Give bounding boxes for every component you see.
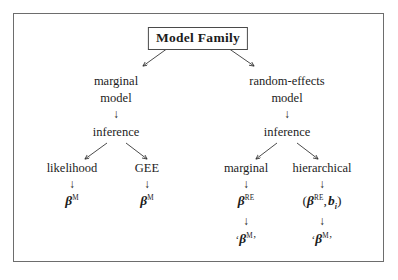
arrow-down-random-effects-to-inference: ↓ (284, 108, 290, 121)
arrow-down-beta-re-to-quoted-beta-m: ↓ (243, 215, 249, 228)
node-marginal-model-line2: model (94, 90, 138, 107)
beta-symbol: β (65, 193, 72, 208)
arrow-down-likelihood-to-beta: ↓ (69, 178, 75, 191)
close-quote: ’ (329, 233, 333, 245)
figure-canvas: Model Family marginal model ↓ inference … (0, 0, 398, 280)
node-quoted-beta-m-hierarchical[interactable]: ‘βM’ (312, 231, 333, 246)
beta-superscript: RE (245, 194, 255, 202)
figure-frame (13, 13, 384, 262)
node-left-inference[interactable]: inference (93, 125, 140, 139)
node-beta-m-gee[interactable]: βM (140, 193, 154, 208)
node-marginal-model-line1: marginal (94, 73, 138, 90)
beta-superscript: M (72, 194, 79, 202)
node-right-inference[interactable]: inference (264, 125, 311, 139)
node-beta-m-likelihood[interactable]: βM (65, 193, 79, 208)
root-label: Model Family (156, 30, 240, 45)
node-beta-re-marginal[interactable]: βRE (238, 193, 255, 208)
close-quote: ’ (253, 233, 257, 245)
node-random-effects-model-line1: random-effects (249, 73, 324, 90)
arrow-down-marginal-to-inference: ↓ (113, 108, 119, 121)
arrow-down-gee-to-beta: ↓ (144, 178, 150, 191)
node-marginal-model[interactable]: marginal model (94, 73, 138, 107)
close-paren: ) (337, 193, 342, 208)
node-likelihood[interactable]: likelihood (47, 161, 98, 175)
beta-symbol: β (315, 231, 322, 246)
beta-superscript: RE (314, 194, 324, 202)
node-beta-re-b-hierarchical[interactable]: (βRE, bi) (303, 193, 342, 208)
arrow-down-beta-re-b-to-quoted-beta-m: ↓ (319, 215, 325, 228)
arrow-down-hierarchical-to-beta-re-b: ↓ (319, 178, 325, 191)
arrow-down-marginal-to-beta-re: ↓ (243, 178, 249, 191)
node-random-effects-model-line2: model (249, 90, 324, 107)
comma-separator: , (324, 193, 327, 208)
node-random-effects-model[interactable]: random-effects model (249, 73, 324, 107)
node-gee[interactable]: GEE (135, 161, 159, 175)
root-node-model-family[interactable]: Model Family (148, 27, 248, 50)
beta-symbol: β (239, 231, 246, 246)
node-marginal-inference[interactable]: marginal (224, 161, 268, 175)
beta-symbol: β (140, 193, 147, 208)
node-hierarchical-inference[interactable]: hierarchical (293, 161, 352, 175)
beta-symbol: β (238, 193, 245, 208)
beta-superscript: M (147, 194, 154, 202)
node-quoted-beta-m-marginal[interactable]: ‘βM’ (236, 231, 257, 246)
